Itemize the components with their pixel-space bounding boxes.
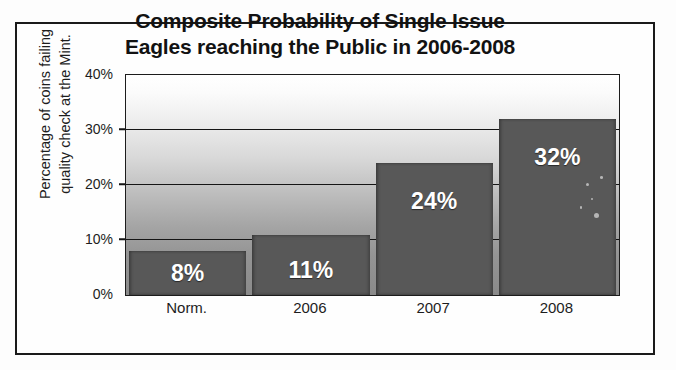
x-tick-label: 2007: [372, 299, 495, 316]
bar[interactable]: 8%: [129, 251, 246, 295]
bar-value-label: 8%: [129, 260, 246, 287]
scan-speckle: [586, 183, 589, 186]
bar-value-label: 24%: [376, 188, 493, 215]
scan-speckle: [591, 198, 593, 200]
x-axis: Norm.200620072008: [125, 299, 620, 325]
y-axis-title-line-1: Percentage of coins failing: [35, 0, 55, 229]
x-tick-label: 2008: [495, 299, 618, 316]
y-tick-label: 30%: [61, 121, 113, 137]
chart-figure: Composite Probability of Single Issue Ea…: [0, 0, 676, 370]
bar-value-label: 32%: [499, 144, 616, 171]
chart-title: Composite Probability of Single Issue Ea…: [30, 8, 610, 60]
scan-speckle: [594, 213, 599, 218]
bar-value-label: 11%: [252, 257, 369, 284]
x-tick-label: 2006: [248, 299, 371, 316]
scan-speckle: [600, 176, 604, 179]
y-axis: 0%10%20%30%40%: [63, 74, 125, 296]
bar[interactable]: 32%: [499, 119, 616, 295]
y-tick-label: 20%: [61, 176, 113, 192]
bar[interactable]: 24%: [376, 163, 493, 295]
chart-title-line-2: Eagles reaching the Public in 2006-2008: [30, 34, 610, 60]
x-tick-label: Norm.: [125, 299, 248, 316]
y-tick-label: 0%: [61, 286, 113, 302]
y-tick-label: 40%: [61, 66, 113, 82]
scan-speckle: [580, 206, 583, 209]
bar[interactable]: 11%: [252, 235, 369, 296]
chart-title-line-1: Composite Probability of Single Issue: [30, 8, 610, 34]
plot-area: 8%11%24%32%: [125, 74, 620, 296]
y-tick-label: 10%: [61, 231, 113, 247]
